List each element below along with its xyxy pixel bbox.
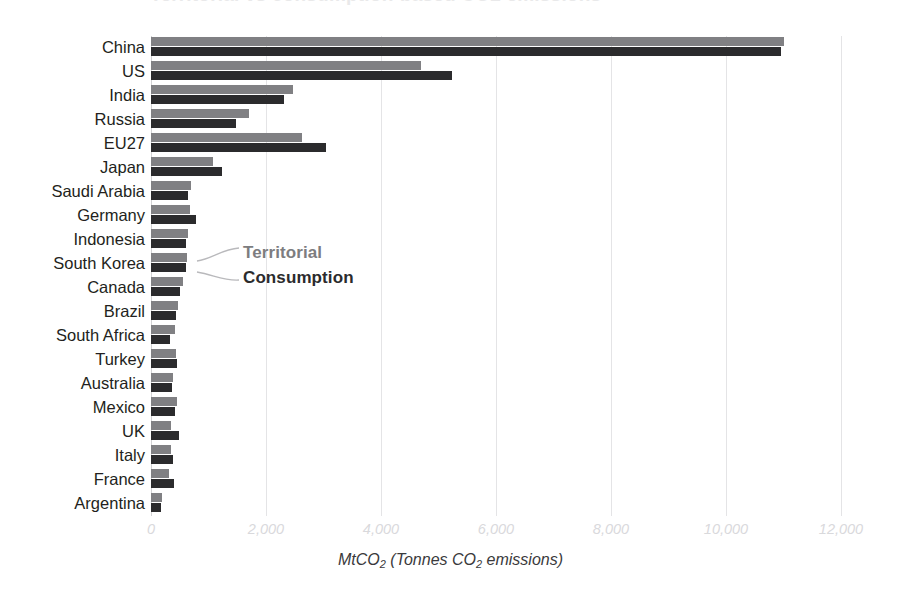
bar-row xyxy=(151,204,841,228)
gridline-12000 xyxy=(841,36,842,516)
x-axis-title: MtCO2 (Tonnes CO2 emissions) xyxy=(0,551,901,569)
bar-row xyxy=(151,132,841,156)
y-axis-label: South Korea xyxy=(5,255,145,271)
bar-row xyxy=(151,156,841,180)
x-tick-label: 6,000 xyxy=(478,521,514,537)
bar-territorial xyxy=(151,181,191,190)
bar-consumption xyxy=(151,95,284,104)
chart-container: Territorial vs consumption-based CO2 emi… xyxy=(0,0,901,615)
chart-title: Territorial vs consumption-based CO2 emi… xyxy=(150,0,770,6)
bar-row xyxy=(151,444,841,468)
bar-row xyxy=(151,348,841,372)
bar-consumption xyxy=(151,383,172,392)
bar-territorial xyxy=(151,133,302,142)
x-tick-label: 4,000 xyxy=(363,521,399,537)
axis-title-text: emissions) xyxy=(482,551,563,568)
axis-title-text: (Tonnes CO xyxy=(386,551,476,568)
bar-territorial xyxy=(151,109,249,118)
axis-title-text: MtCO xyxy=(338,551,380,568)
bar-territorial xyxy=(151,205,190,214)
x-tick-label: 0 xyxy=(147,521,155,537)
bar-consumption xyxy=(151,167,222,176)
bar-territorial xyxy=(151,349,176,358)
y-axis-label: Turkey xyxy=(5,351,145,367)
y-axis-label: India xyxy=(5,87,145,103)
y-axis-label: Brazil xyxy=(5,303,145,319)
bar-row xyxy=(151,180,841,204)
bar-consumption xyxy=(151,143,326,152)
bar-row xyxy=(151,252,841,276)
bar-consumption xyxy=(151,287,180,296)
y-axis-label: South Africa xyxy=(5,327,145,343)
bar-territorial xyxy=(151,157,213,166)
y-axis-label: Italy xyxy=(5,447,145,463)
bar-territorial xyxy=(151,493,162,502)
bar-consumption xyxy=(151,191,188,200)
y-axis-label: France xyxy=(5,471,145,487)
y-axis-label: US xyxy=(5,63,145,79)
bar-territorial xyxy=(151,301,178,310)
bar-consumption xyxy=(151,359,177,368)
bar-consumption xyxy=(151,503,161,512)
bar-row xyxy=(151,300,841,324)
bar-territorial xyxy=(151,421,171,430)
bar-row xyxy=(151,492,841,516)
bar-consumption xyxy=(151,407,175,416)
bar-row xyxy=(151,276,841,300)
bar-row xyxy=(151,396,841,420)
y-axis-label: UK xyxy=(5,423,145,439)
bar-territorial xyxy=(151,397,177,406)
bar-row xyxy=(151,372,841,396)
bar-consumption xyxy=(151,431,179,440)
y-axis-label: EU27 xyxy=(5,135,145,151)
axis-title-subscript: 2 xyxy=(476,558,482,570)
y-axis-label: Canada xyxy=(5,279,145,295)
bar-consumption xyxy=(151,263,186,272)
bar-row xyxy=(151,36,841,60)
x-tick-label: 10,000 xyxy=(704,521,748,537)
bar-territorial xyxy=(151,253,187,262)
bar-territorial xyxy=(151,469,169,478)
bar-row xyxy=(151,468,841,492)
bar-territorial xyxy=(151,229,188,238)
bar-territorial xyxy=(151,325,175,334)
y-axis-label: Germany xyxy=(5,207,145,223)
x-axis-tick-labels: 02,0004,0006,0008,00010,00012,000 xyxy=(151,521,841,545)
x-tick-label: 2,000 xyxy=(248,521,284,537)
bar-territorial xyxy=(151,445,171,454)
bar-territorial xyxy=(151,373,173,382)
bar-territorial xyxy=(151,85,293,94)
bar-consumption xyxy=(151,239,186,248)
bar-row xyxy=(151,228,841,252)
bar-consumption xyxy=(151,455,173,464)
y-axis-label: China xyxy=(5,39,145,55)
y-axis-label: Argentina xyxy=(5,495,145,511)
bar-consumption xyxy=(151,215,196,224)
x-tick-label: 12,000 xyxy=(819,521,863,537)
bar-row xyxy=(151,84,841,108)
bar-consumption xyxy=(151,479,174,488)
bar-consumption xyxy=(151,335,170,344)
bar-consumption xyxy=(151,47,781,56)
bar-consumption xyxy=(151,311,176,320)
bar-row xyxy=(151,60,841,84)
x-tick-label: 8,000 xyxy=(593,521,629,537)
y-axis-label: Indonesia xyxy=(5,231,145,247)
y-axis-label: Mexico xyxy=(5,399,145,415)
bar-row xyxy=(151,324,841,348)
plot-area xyxy=(151,36,841,516)
y-axis-category-labels: ChinaUSIndiaRussiaEU27JapanSaudi ArabiaG… xyxy=(2,36,145,516)
bar-consumption xyxy=(151,119,236,128)
bar-territorial xyxy=(151,37,784,46)
y-axis-label: Russia xyxy=(5,111,145,127)
bar-consumption xyxy=(151,71,452,80)
bar-territorial xyxy=(151,277,183,286)
bar-territorial xyxy=(151,61,421,70)
bar-row xyxy=(151,420,841,444)
axis-title-subscript: 2 xyxy=(380,558,386,570)
y-axis-label: Japan xyxy=(5,159,145,175)
y-axis-label: Australia xyxy=(5,375,145,391)
bar-row xyxy=(151,108,841,132)
y-axis-label: Saudi Arabia xyxy=(5,183,145,199)
